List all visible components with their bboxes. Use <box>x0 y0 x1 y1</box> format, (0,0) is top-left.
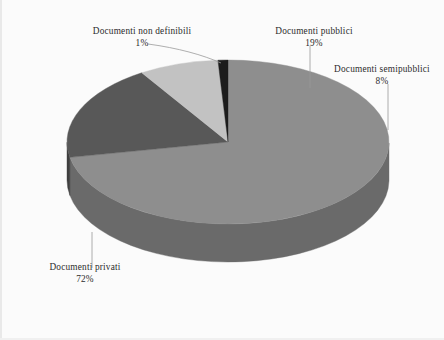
slice-label-semipubblici: Documenti semipubblici 8% <box>322 64 442 87</box>
pie-chart-graphic <box>0 0 444 340</box>
slice-label-non-definibili-name: Documenti non definibili <box>93 26 191 36</box>
slice-label-pubblici: Documenti pubblici 19% <box>258 26 370 49</box>
slice-label-semipubblici-name: Documenti semipubblici <box>334 64 430 74</box>
slice-label-privati: Documenti privati 72% <box>22 262 148 285</box>
pie-chart-figure: Documenti non definibili 1% Documenti pu… <box>0 0 444 340</box>
slice-label-non-definibili-percent: 1% <box>78 38 206 50</box>
slice-label-non-definibili: Documenti non definibili 1% <box>78 26 206 49</box>
slice-label-privati-percent: 72% <box>22 274 148 286</box>
slice-label-pubblici-percent: 19% <box>258 38 370 50</box>
slice-label-semipubblici-percent: 8% <box>322 76 442 88</box>
slice-label-pubblici-name: Documenti pubblici <box>275 26 352 36</box>
slice-label-privati-name: Documenti privati <box>49 262 120 272</box>
